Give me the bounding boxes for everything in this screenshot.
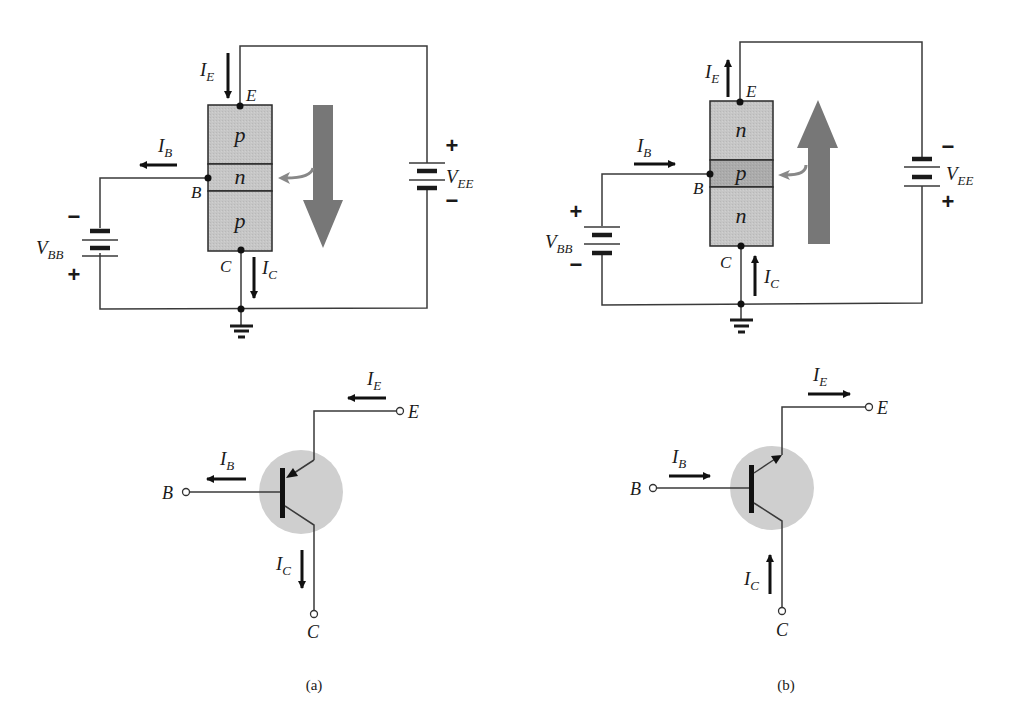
vee-top-sign: + xyxy=(446,133,459,158)
panel-b-circuit: n p n E B C IE IB IC + − VBB xyxy=(545,42,974,332)
region-label-collector: n xyxy=(736,203,747,228)
symbol-label-e: E xyxy=(876,398,888,418)
base-diversion-arrow-icon xyxy=(286,168,313,178)
vbb-label: VBB xyxy=(545,231,573,256)
ie-label: IE xyxy=(704,61,719,86)
region-label-base: n xyxy=(235,164,246,189)
region-label-emitter: p xyxy=(233,122,246,147)
terminal-b xyxy=(650,485,657,492)
terminal-e xyxy=(866,404,873,411)
terminal-c xyxy=(311,611,318,618)
panel-a-symbol: E B C IE IB IC xyxy=(162,368,419,642)
terminal-b xyxy=(183,489,190,496)
vbb-top-sign: + xyxy=(570,199,583,224)
symbol-base-bar xyxy=(280,468,285,518)
collector-node xyxy=(738,243,745,250)
terminal-e xyxy=(397,408,404,415)
transistor-figure: p n p E B C IE IB IC xyxy=(0,0,1012,728)
symbol-label-c: C xyxy=(307,622,320,642)
symbol-label-e: E xyxy=(407,402,419,422)
vee-battery-icon xyxy=(409,163,445,188)
vbb-battery-icon xyxy=(584,227,620,253)
symbol-ic-label: IC xyxy=(743,568,759,593)
symbol-ie-label: IE xyxy=(812,364,827,389)
symbol-label-b: B xyxy=(630,479,641,499)
ground-icon xyxy=(730,320,753,332)
terminal-label-c: C xyxy=(220,257,232,276)
ie-label: IE xyxy=(199,59,214,84)
panel-b-symbol: E B C IE IB IC xyxy=(630,364,888,640)
terminal-label-c: C xyxy=(720,253,732,272)
vbb-battery-icon xyxy=(82,231,118,256)
vbb-top-sign: − xyxy=(68,204,81,229)
vee-top-sign: − xyxy=(942,134,955,159)
terminal-label-b: B xyxy=(191,183,202,202)
ground-node xyxy=(238,306,245,313)
carrier-flow-arrow-down-icon xyxy=(303,105,343,248)
vee-bottom-sign: + xyxy=(942,189,955,214)
terminal-label-e: E xyxy=(745,82,757,101)
vbb-label: VBB xyxy=(36,237,64,262)
symbol-ic-label: IC xyxy=(275,553,291,578)
vbb-bottom-sign: + xyxy=(68,262,81,287)
terminal-label-b: B xyxy=(693,179,704,198)
emitter-node xyxy=(237,103,244,110)
base-node xyxy=(205,175,212,182)
terminal-c xyxy=(779,608,786,615)
symbol-emitter-lead xyxy=(314,411,398,460)
region-label-emitter: n xyxy=(736,117,747,142)
ib-label: IB xyxy=(636,135,651,160)
ib-label: IB xyxy=(157,135,172,160)
caption-b: (b) xyxy=(777,677,795,694)
base-node xyxy=(707,171,714,178)
symbol-label-c: C xyxy=(776,620,789,640)
ic-label: IC xyxy=(261,257,277,282)
panel-a-circuit: p n p E B C IE IB IC xyxy=(36,46,474,337)
symbol-emitter-lead xyxy=(782,407,866,455)
terminal-label-e: E xyxy=(245,86,257,105)
ic-label: IC xyxy=(763,266,779,291)
ground-node xyxy=(738,301,745,308)
collector-node xyxy=(238,247,245,254)
symbol-ib-label: IB xyxy=(671,446,686,471)
symbol-label-b: B xyxy=(162,483,173,503)
vee-battery-icon xyxy=(904,159,940,186)
vee-bottom-sign: − xyxy=(446,188,459,213)
caption-a: (a) xyxy=(306,677,323,694)
ground-icon xyxy=(230,326,253,337)
region-label-base: p xyxy=(734,160,747,185)
symbol-base-bar xyxy=(749,465,754,513)
base-diversion-arrow-icon xyxy=(786,165,806,175)
region-label-collector: p xyxy=(233,208,246,233)
emitter-node xyxy=(737,99,744,106)
symbol-ib-label: IB xyxy=(219,448,234,473)
symbol-ie-label: IE xyxy=(366,368,381,393)
vee-label: VEE xyxy=(946,163,974,188)
